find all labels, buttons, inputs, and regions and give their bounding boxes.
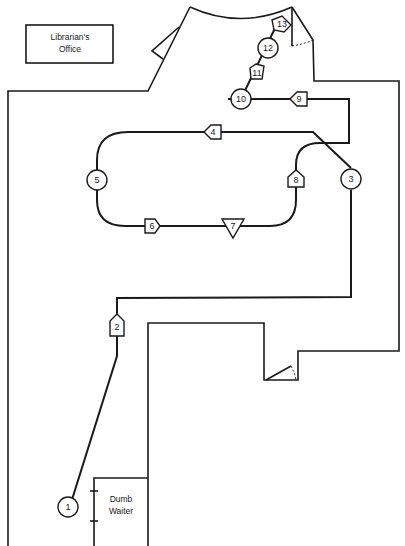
step-8: 8 (288, 170, 304, 187)
step-5: 5 (87, 170, 107, 190)
svg-text:1: 1 (65, 502, 70, 512)
step-11: 11 (250, 64, 264, 79)
svg-text:6: 6 (149, 221, 154, 231)
svg-text:4: 4 (210, 127, 215, 137)
svg-text:13: 13 (277, 19, 287, 29)
building-walls (8, 7, 399, 546)
svg-text:3: 3 (348, 174, 353, 184)
dumb-waiter-label-1: Dumb (110, 494, 133, 504)
dumb-waiter-label-2: Waiter (109, 506, 133, 516)
step-13: 13 (272, 16, 291, 32)
svg-text:11: 11 (252, 68, 261, 78)
step-7: 7 (222, 219, 244, 238)
svg-text:9: 9 (296, 94, 301, 104)
step-4: 4 (204, 125, 221, 139)
step-9: 9 (290, 92, 307, 106)
librarians-office-room: Librarian's Office (26, 25, 113, 63)
step-10: 10 (231, 89, 251, 109)
step-6: 6 (145, 219, 160, 233)
svg-text:2: 2 (114, 322, 119, 332)
svg-text:7: 7 (230, 221, 235, 231)
librarians-office-label-1: Librarian's (51, 32, 90, 42)
step-2: 2 (110, 314, 124, 336)
svg-text:12: 12 (263, 43, 273, 53)
svg-text:10: 10 (236, 94, 246, 104)
svg-text:5: 5 (94, 175, 99, 185)
flow-path (70, 22, 351, 506)
step-3: 3 (341, 169, 361, 189)
svg-text:8: 8 (293, 175, 298, 185)
librarians-office-label-2: Office (59, 44, 81, 54)
step-12: 12 (258, 38, 278, 58)
floor-plan-diagram: Librarian's Office Dumb Waiter (0, 0, 405, 546)
dumb-waiter-room: Dumb Waiter (90, 478, 148, 546)
step-1: 1 (58, 497, 78, 517)
